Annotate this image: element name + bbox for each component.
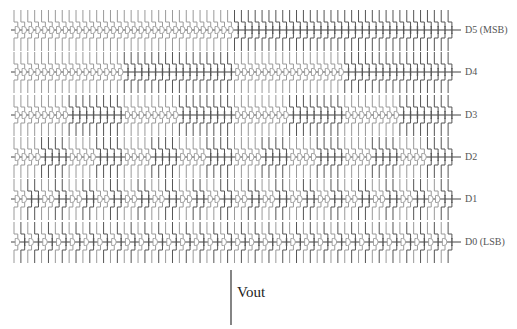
row-label-1: D4 (465, 66, 477, 77)
bit-row-3 (11, 137, 461, 178)
row-label-2: D3 (465, 109, 477, 120)
bit-row-5 (11, 222, 461, 263)
row-label-5: D0 (LSB) (465, 236, 505, 247)
bit-row-2 (11, 95, 461, 136)
bit-row-4 (11, 179, 461, 220)
switch-array-diagram (0, 0, 517, 329)
row-label-3: D2 (465, 151, 477, 162)
bit-row-1 (11, 52, 461, 93)
row-label-4: D1 (465, 193, 477, 204)
bit-row-0 (11, 10, 461, 51)
row-label-0: D5 (MSB) (465, 24, 508, 35)
vout-label: Vout (237, 284, 265, 301)
